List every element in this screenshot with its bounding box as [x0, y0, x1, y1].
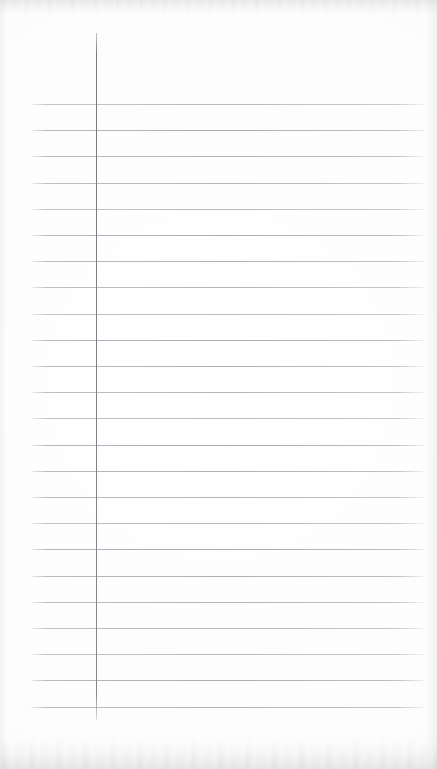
horizontal-rule-line	[31, 130, 424, 131]
horizontal-rule-line	[31, 497, 424, 498]
horizontal-rule-line	[31, 183, 424, 184]
horizontal-rule-line	[31, 392, 424, 393]
horizontal-rule-line	[31, 366, 424, 367]
horizontal-rule-line	[31, 445, 424, 446]
horizontal-rule-line	[31, 209, 424, 210]
horizontal-rule-line	[31, 235, 424, 236]
horizontal-rule-line	[31, 287, 424, 288]
vertical-margin-rule	[96, 33, 97, 720]
horizontal-rule-line	[31, 340, 424, 341]
horizontal-rule-line	[31, 628, 424, 629]
horizontal-rule-line	[31, 418, 424, 419]
horizontal-rule-line	[31, 314, 424, 315]
horizontal-rule-line	[31, 654, 424, 655]
horizontal-rule-line	[31, 549, 424, 550]
horizontal-rule-line	[31, 523, 424, 524]
horizontal-rule-line	[31, 471, 424, 472]
lined-paper-page	[0, 0, 437, 769]
horizontal-rule-line	[31, 104, 424, 105]
horizontal-rule-line	[31, 261, 424, 262]
horizontal-rule-layer	[0, 0, 437, 769]
horizontal-rule-line	[31, 602, 424, 603]
horizontal-rule-line	[31, 576, 424, 577]
horizontal-rule-line	[31, 707, 424, 708]
horizontal-rule-line	[31, 680, 424, 681]
horizontal-rule-line	[31, 156, 424, 157]
